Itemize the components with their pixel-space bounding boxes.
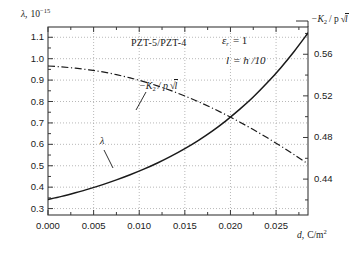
left-tick-label: 0.4 [20, 182, 44, 192]
left-tick-label: 1.0 [20, 54, 44, 64]
x-tick-label: 0.015 [170, 221, 200, 231]
x-axis-unit-exp: 2 [324, 228, 327, 235]
l-value: = h /10 [233, 54, 265, 66]
epsilon-value: = 1 [233, 34, 247, 46]
right-tick-label: 0.44 [314, 174, 333, 184]
lambda-symbol: λ [100, 135, 104, 146]
l-symbol: l [226, 54, 229, 66]
x-axis-symbol: d, [297, 230, 304, 240]
k2-prefix: −K [139, 80, 152, 91]
left-tick-label: 1.1 [20, 32, 44, 42]
right-axis-mid: / p [329, 14, 339, 24]
right-axis-prefix: −K [311, 14, 324, 24]
x-tick-label: 0.020 [215, 221, 245, 231]
x-tick-label: 0.005 [79, 221, 109, 231]
x-axis-caption: d,C/m2 [297, 229, 327, 241]
left-tick-label: 0.5 [20, 161, 44, 171]
figure-container: λ,10−15 −K2/ p√l d,C/m2 PZT-5/PZT-4 εr= … [0, 0, 362, 253]
right-axis-caption: −K2/ p√l [311, 15, 349, 26]
param-epsilon: εr= 1 [222, 35, 247, 48]
right-tick-label: 0.52 [314, 91, 333, 101]
k2-rest: / p [158, 80, 168, 91]
x-axis-unit: C/m [307, 230, 323, 240]
plot-background [48, 27, 308, 215]
epsilon-subscript: r [226, 40, 229, 47]
left-axis-symbol: λ, [21, 9, 28, 19]
right-axis-caption-pointer [296, 21, 308, 27]
right-tick-label: 0.48 [314, 132, 333, 142]
material-title-text: PZT-5/PZT-4 [131, 37, 186, 48]
k2-sqrt-arg: l [174, 79, 178, 91]
right-axis-sqrt-arg: l [345, 13, 349, 24]
curve-label-minus-k2: −K2/ p√l [139, 81, 178, 93]
curve-label-lambda: λ [100, 136, 104, 146]
right-tick-label: 0.56 [314, 49, 333, 59]
x-tick-label: 0.025 [261, 221, 291, 231]
x-tick-label: 0.000 [33, 221, 63, 231]
material-title: PZT-5/PZT-4 [131, 38, 186, 48]
left-tick-label: 0.3 [20, 204, 44, 214]
left-tick-label: 0.7 [20, 118, 44, 128]
x-tick-label: 0.010 [124, 221, 154, 231]
left-tick-label: 0.6 [20, 139, 44, 149]
left-axis-scale-exp: −15 [40, 7, 50, 14]
param-thickness: l= h /10 [226, 55, 266, 66]
right-axis-sub: 2 [324, 18, 327, 25]
left-axis-scale-base: 10 [31, 9, 41, 19]
left-axis-caption: λ,10−15 [21, 8, 50, 20]
k2-subscript: 2 [152, 85, 155, 92]
left-tick-label: 0.9 [20, 75, 44, 85]
left-tick-label: 0.8 [20, 97, 44, 107]
